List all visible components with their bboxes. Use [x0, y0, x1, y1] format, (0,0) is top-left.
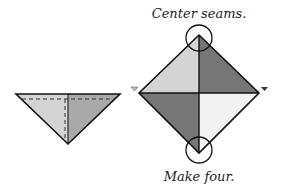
- caption-make-four: Make four.: [163, 169, 235, 184]
- assembled-square: [131, 25, 268, 163]
- folded-triangle: [16, 94, 120, 144]
- left-marker-triangle-icon: [131, 87, 138, 91]
- caption-center-seams: Center seams.: [152, 6, 247, 21]
- right-marker-triangle-icon: [261, 87, 268, 91]
- diagram-canvas: Center seams. Make four.: [0, 0, 281, 194]
